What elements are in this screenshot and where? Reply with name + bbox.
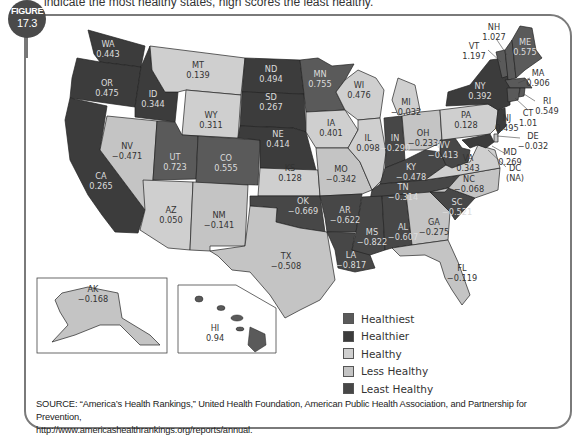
svg-text:RI0.549: RI0.549 [535,96,558,116]
legend-item-least-healthy: Least Healthy [343,380,433,398]
legend-item-healthier: Healthier [343,328,433,346]
legend-label: Healthier [361,330,409,342]
legend-label: Less Healthy [361,365,428,377]
figure-badge-stem [25,36,28,58]
legend-label: Healthy [361,348,402,360]
legend-item-healthiest: Healthiest [343,310,433,328]
figure-badge-word: FIGURE [11,6,43,16]
source-line-1: SOURCE: “America’s Health Rankings,” Uni… [36,398,566,424]
legend-label: Least Healthy [361,383,433,395]
legend-swatch [343,383,354,394]
legend-swatch [343,313,354,324]
legend-swatch [343,348,354,359]
legend-swatch [343,331,354,342]
state-de [494,134,498,142]
map-legend: Healthiest Healthier Healthy Less Health… [343,310,433,398]
figure-badge: FIGURE 17.3 [8,0,46,38]
legend-swatch [343,366,354,377]
source-note: SOURCE: “America’s Health Rankings,” Uni… [36,398,566,435]
legend-item-healthy: Healthy [343,345,433,363]
svg-text:NH1.027: NH1.027 [482,22,505,42]
state-ri [519,88,525,97]
legend-label: Healthiest [361,313,414,325]
svg-text:MA0.906: MA0.906 [526,68,549,88]
us-map: WA0.443 OR0.475 CA0.265 ID0.344 NV−0.471… [0,0,578,435]
state-ct [507,88,520,102]
legend-item-less-healthy: Less Healthy [343,363,433,381]
svg-text:VT1.197: VT1.197 [462,41,485,61]
figure-badge-number: 17.3 [8,18,46,29]
svg-text:DE−0.032: DE−0.032 [518,131,548,151]
source-line-2: http://www.americashealthrankings.org/re… [36,424,566,435]
